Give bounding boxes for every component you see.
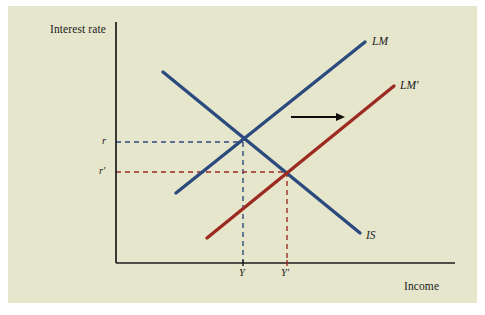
x-axis-title: Income [404,280,439,292]
y-axis-title: Interest rate [50,23,106,35]
lm-prime-curve-label: LM′ [400,79,419,91]
y-tick-label-r-prime: r′ [99,165,105,176]
shift-arrow-icon [291,113,345,121]
is-curve [163,72,360,233]
is-curve-label: IS [366,229,376,241]
lm-prime-curve [207,86,394,238]
y-tick-label-r: r [102,135,106,146]
x-tick-label-Y-prime: Y′ [281,267,289,278]
is-lm-figure: Interest rate Income LM LM′ IS r r′ Y Y′ [0,0,485,315]
lm-curve-label: LM [372,35,388,47]
x-tick-label-Y: Y [239,267,245,278]
